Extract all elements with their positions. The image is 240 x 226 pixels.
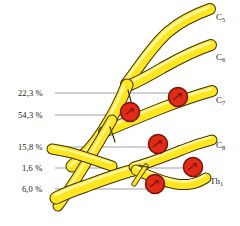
lesion-marker-m1 [169,88,188,107]
percent-label-p3: 15,8 % [18,142,43,152]
root-label-c6: C6 [216,52,225,63]
lesion-marker-m4 [184,158,203,177]
root-label-subscript: 5 [222,16,225,23]
brachial-plexus-figure: 22,3 %54,3 %15,8 %1,6 %6,0 % C5C6C7C8Th1 [0,0,240,226]
root-label-c8: C8 [216,140,225,151]
root-label-subscript: 7 [222,99,225,106]
percent-label-p4: 1,6 % [22,163,42,173]
root-label-th1: Th1 [210,176,223,187]
percent-label-p2: 54,3 % [18,110,43,120]
root-label-base: Th [210,176,220,186]
marker-circle [149,135,168,154]
percent-label-p5: 6,0 % [22,184,42,194]
root-label-c7: C7 [216,95,225,106]
lesion-marker-m5 [146,175,165,194]
percent-label-p1: 22,3 % [18,88,43,98]
root-label-c5: C5 [216,12,225,23]
marker-circle [169,88,188,107]
marker-circle [184,158,203,177]
root-label-subscript: 1 [220,180,223,187]
marker-circle [121,103,140,122]
lesion-marker-m2 [121,103,140,122]
lesion-marker-m3 [149,135,168,154]
marker-circle [146,175,165,194]
root-label-subscript: 8 [222,144,225,151]
root-label-subscript: 6 [222,56,225,63]
nerve-lower-thick-root-highlight [55,167,133,195]
